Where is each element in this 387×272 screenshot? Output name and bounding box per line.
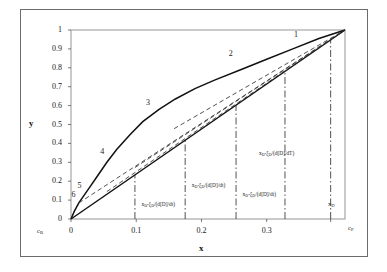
y-tick-label: 0.9	[40, 45, 62, 53]
y-tick-label: 0.1	[40, 196, 62, 204]
y-tick-label: 0.8	[40, 64, 62, 72]
figure-container: 00.10.20.30.40.50.60.70.80.91 00.10.20.3…	[0, 0, 387, 272]
x-tick-label: 0.1	[124, 227, 148, 235]
curve-number-5: 5	[77, 182, 81, 190]
y-tick-label: 0.4	[40, 139, 62, 147]
y-tick-label: 0.3	[40, 158, 62, 166]
y-tick-label: 0.7	[40, 83, 62, 91]
xd-tick-label: xD	[328, 201, 335, 208]
curve-number-2: 2	[229, 50, 233, 58]
annotation-2: xD-ξD/(d[D]/dt)	[192, 183, 226, 189]
annotation-1: xD-ξD/(d[D]/dt)	[142, 202, 176, 208]
y-tick-label: 0.2	[40, 177, 62, 185]
x-tick-label: 0.3	[255, 227, 279, 235]
y-tick-label: 0.5	[40, 121, 62, 129]
curve-number-4: 4	[100, 148, 104, 156]
y-tick-label: 1	[40, 26, 62, 34]
axis-endpoint-cp: cP	[348, 225, 353, 232]
curve-number-1: 1	[294, 31, 298, 39]
x-tick-label: 0	[59, 227, 83, 235]
cb-subscript: B	[40, 230, 43, 235]
y-axis-title: y	[29, 118, 34, 128]
annotation-4: xD-ξD/(d[D]/dT)	[259, 151, 294, 157]
y-tick-label: 0.6	[40, 102, 62, 110]
y-tick-label: 0	[40, 215, 62, 223]
x-tick-label: 0.2	[189, 227, 213, 235]
annotation-3: xD-ξD/(d[D]/dt)	[243, 192, 277, 198]
cp-subscript: P	[351, 227, 354, 232]
xd-subscript: D	[331, 203, 334, 208]
x-axis-title: x	[199, 243, 204, 253]
axis-endpoint-cb: cB	[37, 228, 43, 235]
curve-number-3: 3	[146, 99, 150, 107]
curve-number-6: 6	[72, 191, 76, 199]
